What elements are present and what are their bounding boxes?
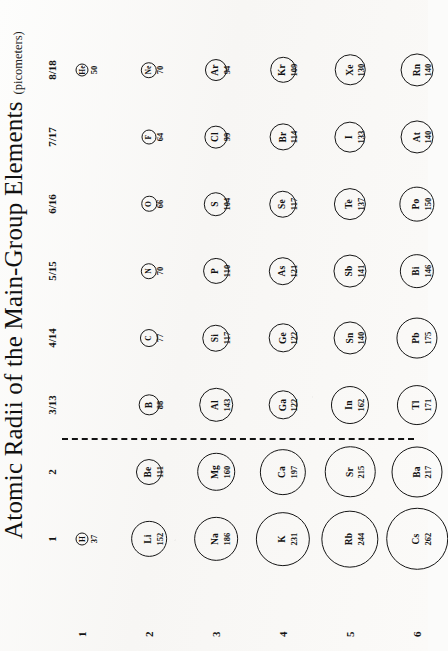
element-cell-Ga[interactable]: Ga122 [269, 391, 298, 420]
element-cell-Mg[interactable]: Mg160 [197, 453, 235, 491]
element-cell-Li[interactable]: Li152 [131, 521, 167, 557]
element-symbol-Sn: Sn [345, 333, 355, 344]
element-symbol-Al: Al [211, 400, 221, 410]
element-cell-Be[interactable]: Be111 [136, 459, 162, 485]
element-cell-Ne[interactable]: Ne70 [141, 62, 157, 78]
element-radius-Li: 152 [155, 533, 165, 546]
element-symbol-Si: Si [211, 334, 221, 342]
element-symbol-K: K [278, 535, 288, 543]
element-symbol-H: H [78, 536, 86, 542]
element-cell-Ar[interactable]: Ar94 [205, 59, 227, 81]
element-radius-Ar: 94 [222, 66, 232, 75]
element-cell-Sb[interactable]: Sb141 [333, 254, 366, 287]
element-cell-C[interactable]: C77 [140, 329, 158, 347]
element-radius-Be: 111 [155, 466, 165, 478]
element-symbol-S: S [211, 201, 221, 206]
element-symbol-He: He [78, 65, 86, 75]
atom-circle-He: He [76, 64, 89, 77]
element-cell-Cl[interactable]: Cl99 [204, 125, 227, 148]
atom-circle-Ba: Ba [392, 447, 443, 498]
element-symbol-As: As [278, 266, 288, 277]
element-radius-P: 110 [222, 265, 232, 277]
element-symbol-Se: Se [278, 199, 288, 209]
element-radius-B: 88 [155, 401, 165, 410]
element-cell-Te[interactable]: Te137 [334, 188, 366, 220]
element-radius-Ge: 122 [289, 332, 299, 345]
element-cell-N[interactable]: N70 [141, 263, 157, 279]
element-cell-Sr[interactable]: Sr215 [325, 447, 376, 498]
element-symbol-Be: Be [144, 467, 154, 478]
element-cell-K[interactable]: K231 [256, 512, 310, 566]
element-radius-Si: 117 [222, 332, 232, 344]
element-cell-Ca[interactable]: Ca197 [260, 449, 306, 495]
element-symbol-Po: Po [412, 199, 422, 210]
element-cell-S[interactable]: S104 [204, 192, 228, 216]
element-cell-Na[interactable]: Na186 [194, 517, 238, 561]
element-cell-Se[interactable]: Se117 [269, 190, 296, 217]
element-symbol-N: N [145, 268, 153, 274]
element-symbol-Ne: Ne [145, 65, 153, 74]
element-cell-Tl[interactable]: Tl171 [397, 385, 437, 425]
element-radius-Xe: 130 [356, 64, 366, 77]
element-cell-I[interactable]: I133 [334, 121, 365, 152]
element-symbol-At: At [412, 132, 422, 142]
element-symbol-Kr: Kr [278, 64, 288, 76]
element-cell-Al[interactable]: Al143 [199, 388, 233, 422]
element-radius-Sn: 140 [356, 332, 366, 345]
element-symbol-Cs: Cs [412, 534, 422, 545]
element-cell-Po[interactable]: Po150 [399, 186, 434, 221]
element-radius-Kr: 109 [289, 64, 299, 77]
element-cell-F[interactable]: F64 [141, 129, 156, 144]
element-symbol-Mg: Mg [211, 465, 221, 479]
element-cell-Si[interactable]: Si117 [202, 324, 229, 351]
element-radius-He: 50 [88, 66, 98, 75]
element-cell-Cs[interactable]: Cs262 [386, 508, 448, 570]
element-cell-Rb[interactable]: Rb244 [321, 510, 378, 567]
element-symbol-Te: Te [345, 199, 355, 209]
atom-circle-H: H [76, 533, 89, 546]
element-cell-Kr[interactable]: Kr109 [270, 57, 296, 83]
element-radius-H: 37 [88, 535, 98, 544]
element-symbol-Ba: Ba [412, 466, 422, 478]
atom-circle-Ca: Ca [260, 449, 306, 495]
element-cell-H[interactable]: H37 [76, 533, 89, 546]
element-symbol-Rn: Rn [412, 64, 422, 77]
element-radius-Mg: 160 [222, 466, 232, 479]
element-symbol-Pb: Pb [412, 332, 422, 344]
element-symbol-Sr: Sr [345, 467, 355, 477]
element-radius-Sb: 141 [356, 265, 366, 278]
element-radius-Po: 150 [423, 198, 433, 211]
element-cell-Xe[interactable]: Xe130 [335, 55, 366, 86]
element-symbol-C: C [145, 335, 153, 341]
element-radius-O: 66 [155, 200, 165, 209]
element-radius-At: 140 [423, 131, 433, 144]
element-symbol-Na: Na [211, 533, 221, 545]
element-symbol-B: B [144, 402, 154, 409]
element-cell-He[interactable]: He50 [76, 64, 89, 77]
element-radius-Ba: 217 [423, 466, 433, 479]
element-cell-Pb[interactable]: Pb175 [396, 317, 437, 358]
element-symbol-I: I [345, 135, 355, 139]
element-cell-Ba[interactable]: Ba217 [392, 447, 443, 498]
element-radius-S: 104 [222, 198, 232, 211]
element-symbol-Tl: Tl [412, 400, 422, 409]
element-cell-Br[interactable]: Br114 [270, 124, 297, 151]
element-symbol-P: P [211, 268, 221, 274]
element-symbol-Ge: Ge [278, 332, 288, 344]
element-cell-B[interactable]: B88 [139, 395, 160, 416]
element-cell-Sn[interactable]: Sn140 [334, 322, 367, 355]
element-radius-Ga: 122 [289, 399, 299, 412]
atom-circle-Cs: Cs [386, 508, 448, 570]
element-cell-Bi[interactable]: Bi146 [400, 254, 434, 288]
element-cell-P[interactable]: P110 [203, 258, 229, 284]
element-symbol-Sb: Sb [345, 266, 355, 277]
element-radius-K: 231 [289, 533, 299, 546]
element-cell-At[interactable]: At140 [401, 121, 434, 154]
element-cell-Rn[interactable]: Rn140 [401, 54, 434, 87]
element-cell-Ge[interactable]: Ge122 [269, 324, 298, 353]
element-cell-In[interactable]: In162 [331, 386, 369, 424]
element-cell-As[interactable]: As121 [269, 257, 297, 285]
element-cell-O[interactable]: O66 [141, 196, 157, 212]
